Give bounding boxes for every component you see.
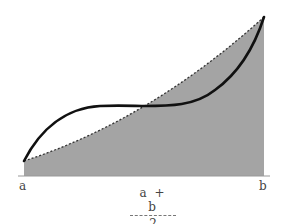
shaded-region bbox=[24, 17, 264, 176]
midpoint-label: a + b 2 bbox=[130, 186, 176, 224]
midpoint-denominator: 2 bbox=[130, 216, 176, 224]
label-b: b bbox=[259, 180, 267, 192]
midpoint-numerator: a + b bbox=[130, 186, 176, 216]
diagram: a b a + b 2 bbox=[0, 0, 284, 224]
label-a: a bbox=[19, 180, 26, 192]
